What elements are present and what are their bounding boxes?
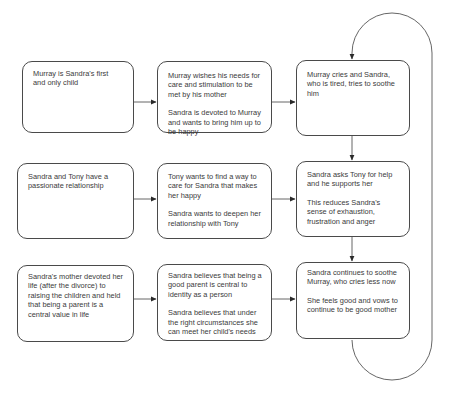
node-sandra-continues-soothe: Sandra continues to soothe Murray, who c… bbox=[296, 262, 410, 339]
text-line: Murray is Sandra's first bbox=[33, 69, 108, 78]
node-text: This reduces Sandra's sense of exhaustio… bbox=[307, 198, 401, 226]
node-sandras-mother: Sandra's mother devoted her life (after … bbox=[17, 265, 134, 342]
node-text: She feels good and vows to continue to b… bbox=[307, 296, 401, 315]
node-sandra-tony-relationship: Sandra and Tony have a passionate relati… bbox=[17, 163, 134, 239]
node-text: Sandra's mother devoted her life (after … bbox=[28, 272, 125, 319]
node-text: Sandra believes that under the right cir… bbox=[168, 308, 263, 336]
node-text: Tony wants to find a way to care for San… bbox=[168, 172, 263, 200]
node-murray-wishes-needs: Murray wishes his needs for care and sti… bbox=[157, 61, 272, 133]
node-text: Murray wishes his needs for care and sti… bbox=[168, 71, 263, 99]
node-text: Sandra believes that being a good parent… bbox=[168, 271, 263, 299]
node-sandra-beliefs: Sandra believes that being a good parent… bbox=[157, 264, 272, 341]
node-text: Sandra is devoted to Murray and wants to… bbox=[168, 108, 263, 136]
node-text: Murray is Sandra's first and only child bbox=[33, 69, 125, 88]
node-text: Sandra and Tony have a passionate relati… bbox=[28, 172, 125, 191]
node-text: Sandra asks Tony for help and he support… bbox=[307, 170, 401, 189]
flowchart-canvas: Murray is Sandra's first and only child … bbox=[0, 0, 450, 398]
node-text: Sandra wants to deepen her relationship … bbox=[168, 209, 263, 228]
node-tony-wants-to-care: Tony wants to find a way to care for San… bbox=[157, 163, 272, 239]
node-murray-first-child: Murray is Sandra's first and only child bbox=[22, 61, 134, 133]
node-murray-cries: Murray cries and Sandra, who is tired, t… bbox=[296, 60, 410, 136]
node-text: Sandra continues to soothe Murray, who c… bbox=[307, 268, 401, 287]
text-line: and only child bbox=[33, 78, 78, 87]
node-text: Murray cries and Sandra, who is tired, t… bbox=[307, 70, 401, 98]
node-sandra-asks-tony: Sandra asks Tony for help and he support… bbox=[296, 161, 410, 237]
